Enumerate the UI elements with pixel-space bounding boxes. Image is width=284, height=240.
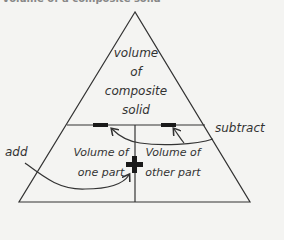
left-line-2: one part	[68, 163, 134, 183]
subtract-arrow-right	[174, 129, 184, 143]
right-line-2: other part	[137, 163, 209, 183]
add-annotation: add	[5, 142, 28, 163]
left-line-1: Volume of	[68, 143, 134, 163]
top-line-2: of	[95, 63, 177, 82]
minus-sign-left	[93, 123, 108, 127]
top-line-3: composite	[95, 82, 177, 101]
composite-volume-label: volume of composite solid	[95, 44, 177, 120]
other-part-volume-label: Volume of other part	[137, 143, 209, 183]
subtract-annotation: subtract	[215, 118, 265, 139]
top-line-4: solid	[95, 101, 177, 120]
minus-sign-right	[161, 123, 176, 127]
right-line-1: Volume of	[137, 143, 209, 163]
one-part-volume-label: Volume of one part	[68, 143, 134, 183]
top-line-1: volume	[95, 44, 177, 63]
